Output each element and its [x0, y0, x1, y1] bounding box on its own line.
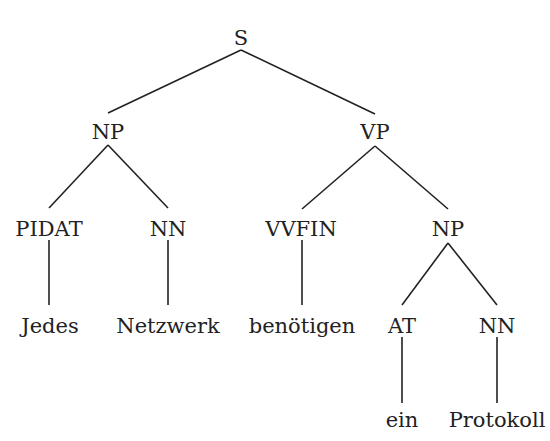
edge-np2-at	[402, 243, 448, 305]
tree-node-w_ben: benötigen	[249, 316, 356, 337]
edge-vp-np2	[375, 146, 448, 209]
tree-node-s: S	[234, 28, 248, 49]
tree-node-w_proto: Protokoll	[449, 410, 546, 431]
tree-node-np2: NP	[432, 219, 465, 240]
edge-s-vp	[241, 50, 375, 114]
tree-node-w_netz: Netzwerk	[116, 316, 219, 337]
tree-node-vp: VP	[360, 122, 389, 143]
tree-node-pidat: PIDAT	[15, 219, 82, 240]
tree-node-nn1: NN	[150, 219, 187, 240]
edge-np2-nn2	[448, 243, 497, 305]
edge-np1-nn1	[108, 145, 168, 208]
tree-node-w_jedes: Jedes	[21, 316, 79, 337]
edge-s-np1	[108, 50, 241, 113]
parse-tree: SNPVPPIDATNNVVFINNPJedesNetzwerkbenötige…	[0, 0, 550, 441]
tree-node-nn2: NN	[479, 316, 516, 337]
edge-vp-vvfin	[302, 146, 375, 209]
tree-node-np1: NP	[92, 122, 125, 143]
tree-node-w_ein: ein	[386, 410, 419, 431]
tree-node-at: AT	[388, 316, 416, 337]
edge-np1-pidat	[49, 145, 108, 208]
tree-node-vvfin: VVFIN	[265, 219, 337, 240]
